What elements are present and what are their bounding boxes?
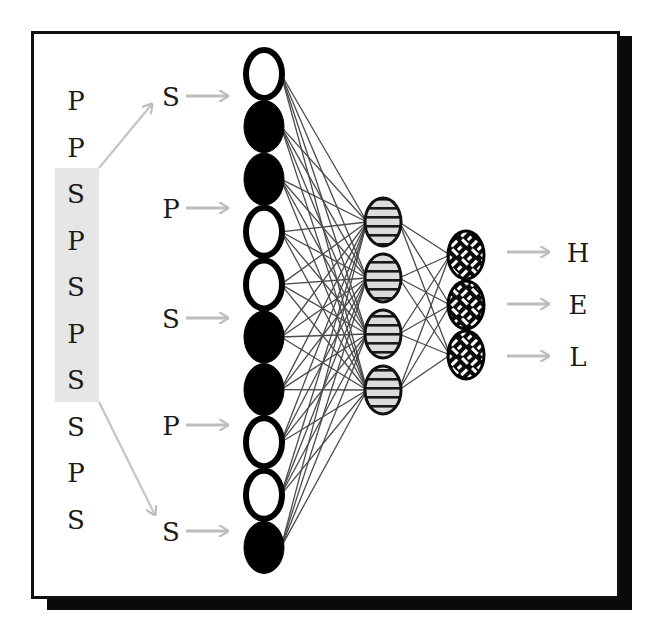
window-letter: S [162,82,180,112]
sequence-letter: S [67,365,85,395]
connection-edge [399,355,450,390]
output-labels: HEL [507,238,589,372]
connection-edge [399,305,450,390]
sequence-letter: P [67,133,85,163]
connection-edge [281,278,367,337]
connection-edge [281,334,367,547]
window-top-arrow [99,104,152,168]
connection-edge [399,305,450,334]
edges-hidden-output [399,222,450,390]
sequence-letter: P [67,458,85,488]
window-letter: P [162,411,180,441]
input-node-filled [244,311,284,363]
hidden-node [365,366,401,414]
diagram-canvas: PPSPSPSSPS SPSPS HEL [0,0,656,635]
edges-input-hidden [281,74,367,547]
connection-edge [281,127,367,222]
output-node [448,281,484,329]
output-layer [448,231,484,379]
input-node-empty [246,418,282,466]
sequence-letter: S [67,179,85,209]
hidden-node [365,254,401,302]
input-node-filled [244,153,284,205]
sequence-letter: P [67,319,85,349]
window-selection-arrows [99,104,155,515]
input-node-filled [244,521,284,573]
window-letter: S [162,517,180,547]
connection-edge [281,334,367,390]
output-label: E [569,290,588,320]
output-node [448,331,484,379]
input-node-empty [246,208,282,256]
input-node-empty [246,260,282,308]
output-label: H [567,238,590,268]
sequence-letter: S [67,412,85,442]
input-node-empty [246,50,282,98]
sequence-letter: S [67,505,85,535]
output-node [448,231,484,279]
connection-edge [281,390,367,442]
hidden-node [365,198,401,246]
connection-edge [399,222,450,255]
window-letter: P [162,194,180,224]
window-letter: S [162,304,180,334]
sequence-letter: S [67,272,85,302]
input-node-filled [244,364,284,416]
hidden-node [365,310,401,358]
input-layer [244,50,284,573]
connection-edge [281,222,367,547]
input-node-empty [246,471,282,519]
sequence-letter: P [67,226,85,256]
output-label: L [569,342,586,372]
window-bottom-arrow [99,402,155,515]
window-letters: SPSPS [162,82,228,547]
sequence-letter: P [67,86,85,116]
input-node-filled [244,101,284,153]
connection-edge [399,222,450,305]
neural-network-diagram: PPSPSPSSPS SPSPS HEL [0,0,656,635]
hidden-layer [365,198,401,414]
